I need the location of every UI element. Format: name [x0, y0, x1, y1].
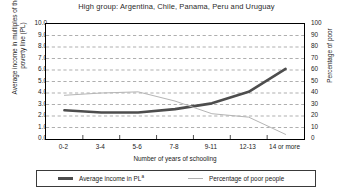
- y-tick-right-6: 40: [311, 88, 341, 96]
- y-tick-right-2: 80: [311, 42, 341, 50]
- legend-swatch-percentage-poor: [188, 178, 203, 179]
- x-tick-marks: [83, 135, 267, 139]
- x-tick-2: 5-6: [133, 143, 142, 150]
- x-tick-6: 14 or more: [269, 143, 300, 150]
- y-tick-left-7: 3.0: [7, 100, 47, 108]
- series-line-0: [64, 69, 285, 113]
- chart-title: High group: Argentina, Chile, Panama, Pe…: [0, 2, 353, 11]
- y-tick-right-9: 10: [311, 123, 341, 131]
- y-tick-left-1: 9.0: [7, 31, 47, 39]
- x-tick-1: 3-4: [96, 143, 105, 150]
- y-tick-left-5: 5.0: [7, 77, 47, 85]
- legend-swatch-average-income: [58, 177, 73, 179]
- y-tick-right-4: 60: [311, 65, 341, 73]
- legend-label-percentage-poor: Percentage of poor people: [209, 175, 284, 182]
- legend-item-percentage-poor: Percentage of poor people: [188, 175, 284, 182]
- y-tick-left-9: 1.0: [7, 123, 47, 131]
- plot-svg: [46, 24, 304, 139]
- legend-item-average-income: Average income in PLa: [58, 174, 144, 182]
- plot-area: [45, 23, 305, 140]
- x-tick-5: 12-13: [240, 143, 256, 150]
- y-tick-right-8: 20: [311, 111, 341, 119]
- y-tick-right-1: 90: [311, 31, 341, 39]
- legend-label-average-income: Average income in PLa: [79, 174, 144, 182]
- chart-legend: Average income in PLa Percentage of poor…: [36, 170, 316, 187]
- y-tick-left-8: 2.0: [7, 111, 47, 119]
- y-tick-right-10: 0: [311, 134, 341, 142]
- x-tick-0: 0-2: [59, 143, 68, 150]
- y-tick-right-7: 30: [311, 100, 341, 108]
- series-lines: [64, 69, 285, 135]
- y-tick-left-2: 8.0: [7, 42, 47, 50]
- y-tick-left-3: 7.0: [7, 54, 47, 62]
- y-tick-right-0: 100: [311, 19, 341, 27]
- x-tick-3: 7-8: [169, 143, 178, 150]
- y-tick-left-0: 10.0: [7, 19, 47, 27]
- chart-figure: High group: Argentina, Chile, Panama, Pe…: [0, 0, 353, 192]
- y-tick-left-10: 0.0: [7, 134, 47, 142]
- y-tick-right-5: 50: [311, 77, 341, 85]
- y-tick-left-6: 4.0: [7, 88, 47, 96]
- x-tick-4: 9-11: [205, 143, 217, 150]
- x-axis-title: Number of years of schooling: [45, 155, 305, 162]
- y-tick-right-3: 70: [311, 54, 341, 62]
- y-tick-left-4: 6.0: [7, 65, 47, 73]
